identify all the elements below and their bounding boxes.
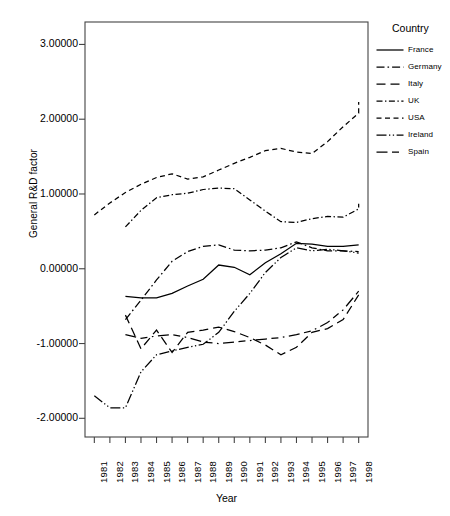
series-line-usa xyxy=(94,102,358,215)
legend-item-italy[interactable]: Italy xyxy=(376,75,450,92)
legend-line-sample-icon xyxy=(376,113,404,123)
series-line-france xyxy=(125,243,358,298)
legend-item-label: USA xyxy=(408,113,425,122)
series-line-germany xyxy=(125,242,358,320)
legend-items: FranceGermanyItalyUKUSAIrelandSpain xyxy=(376,41,450,160)
legend-item-label: UK xyxy=(408,96,419,105)
legend-line-sample-icon xyxy=(376,45,404,55)
plot-frame xyxy=(85,22,368,437)
legend-item-label: Ireland xyxy=(408,130,433,139)
legend-line-sample-icon xyxy=(376,130,404,140)
legend-item-spain[interactable]: Spain xyxy=(376,143,450,160)
legend-item-usa[interactable]: USA xyxy=(376,109,450,126)
legend-item-label: France xyxy=(408,45,434,54)
legend-item-uk[interactable]: UK xyxy=(376,92,450,109)
legend: Country FranceGermanyItalyUKUSAIrelandSp… xyxy=(376,22,450,160)
legend-line-sample-icon xyxy=(376,62,404,72)
legend-item-germany[interactable]: Germany xyxy=(376,58,450,75)
chart-figure: General R&D factor 3.000002.000001.00000… xyxy=(0,0,450,516)
plot-border xyxy=(85,22,368,437)
series-line-uk xyxy=(125,188,358,227)
legend-item-ireland[interactable]: Ireland xyxy=(376,126,450,143)
legend-item-label: Germany xyxy=(408,62,442,71)
legend-item-label: Italy xyxy=(408,79,423,88)
legend-title: Country xyxy=(392,22,450,34)
legend-line-sample-icon xyxy=(376,79,404,89)
data-series-lines xyxy=(94,102,358,408)
legend-line-sample-icon xyxy=(376,147,404,157)
axis-ticks xyxy=(79,44,359,443)
series-line-ireland xyxy=(94,248,358,408)
legend-item-label: Spain xyxy=(408,147,429,156)
legend-line-sample-icon xyxy=(376,96,404,106)
legend-item-france[interactable]: France xyxy=(376,41,450,58)
series-line-spain xyxy=(125,291,358,343)
